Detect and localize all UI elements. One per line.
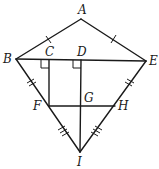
label-i: I — [76, 155, 82, 169]
kite-diagram: A B C D E F G H I — [0, 0, 159, 169]
label-a: A — [77, 3, 87, 17]
label-h: H — [117, 99, 129, 113]
segment-ae — [81, 19, 146, 61]
label-d: D — [76, 45, 87, 59]
label-g: G — [84, 91, 94, 105]
label-b: B — [2, 52, 12, 66]
right-angle-mark-d — [73, 60, 81, 68]
label-c: C — [45, 45, 54, 59]
right-angle-mark-c — [41, 60, 49, 68]
label-f: F — [32, 99, 42, 113]
label-e: E — [148, 54, 158, 68]
